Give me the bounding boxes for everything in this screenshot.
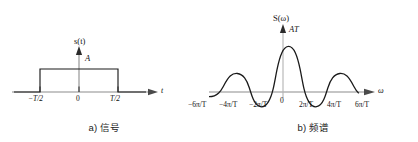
signal-amplitude-label: A: [85, 54, 90, 63]
spectrum-tick-6pi-over-T: 6π/T: [355, 101, 369, 109]
spectrum-y-axis: [280, 24, 286, 98]
panel-spectrum: S(ω) AT ω −6π/T −4π/T −2π/T 0 2π/T 4π/T …: [209, 0, 418, 142]
signal-tick-T-over-2: T/2: [110, 95, 120, 103]
spectrum-tick-zero: 0: [280, 97, 284, 105]
spectrum-caption: b) 频谱: [209, 120, 418, 134]
spectrum-tick-minus-2pi-over-T: −2π/T: [249, 101, 267, 109]
spectrum-tick-2pi-over-T: 2π/T: [299, 101, 313, 109]
signal-tick-minus-T-over-2: −T/2: [28, 95, 43, 103]
signal-x-axis-label: t: [161, 87, 163, 95]
rect-pulse-curve: [14, 69, 146, 92]
spectrum-tick-minus-6pi-over-T: −6π/T: [188, 101, 206, 109]
figure-root: s(t) A t −T/2 0 T/2 a) 信号 S(ω: [0, 0, 418, 142]
signal-y-axis-label: s(t): [74, 37, 85, 46]
signal-caption: a) 信号: [0, 120, 209, 134]
signal-tick-zero: 0: [76, 95, 80, 103]
spectrum-y-axis-label: S(ω): [273, 14, 289, 23]
panel-signal: s(t) A t −T/2 0 T/2 a) 信号: [0, 0, 209, 142]
spectrum-x-axis: [209, 89, 375, 95]
signal-x-ticks: [40, 87, 118, 93]
spectrum-tick-4pi-over-T: 4π/T: [327, 101, 341, 109]
spectrum-amplitude-label: AT: [289, 25, 299, 34]
spectrum-tick-minus-4pi-over-T: −4π/T: [219, 101, 237, 109]
spectrum-x-axis-label: ω: [378, 87, 384, 95]
